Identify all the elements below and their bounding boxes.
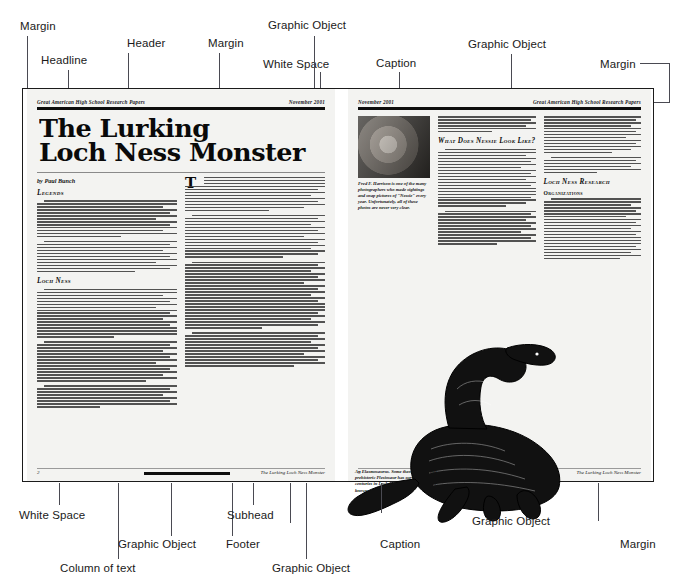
leader-graphic-object-bottom-right (381, 483, 382, 513)
annotation-label-graphic-object-bottom-left: Graphic Object (118, 538, 196, 550)
paragraph (438, 149, 536, 207)
photograph-fred-harrison (358, 116, 430, 178)
article-headline: The Lurking Loch Ness Monster (39, 117, 331, 165)
column-of-text-right: T (185, 177, 325, 411)
right-page: November 2001 Great American High School… (348, 89, 651, 481)
leader-margin-top-right-v (669, 63, 670, 103)
subhead-legends: Legends (37, 189, 177, 197)
paragraph (37, 200, 177, 237)
leader-header-stem (128, 53, 129, 91)
subhead-loch-ness: Loch Ness (37, 277, 177, 285)
paragraph (438, 211, 536, 245)
paragraph (438, 116, 536, 132)
annotation-label-footer: Footer (226, 538, 260, 550)
leader-margin-top-mid (219, 53, 220, 91)
annotation-label-caption-top: Caption (376, 57, 416, 69)
annotation-label-graphic-object-top-right: Graphic Object (468, 38, 546, 50)
annotation-label-graphic-object-bottom-right: Graphic Object (472, 515, 550, 527)
annotation-label-caption-bottom: Caption (380, 538, 420, 550)
figure-caption-elasmosaurus: An Elasmosaurus. Some theories think thi… (355, 469, 447, 494)
right-column-two: What Does Nessie Look Like? (438, 116, 536, 263)
subhead-organizations: Organizations (544, 190, 642, 196)
right-column-one: Fred F. Harrison is one of the many phot… (358, 116, 430, 263)
leader-subhead (253, 483, 254, 505)
paragraph (185, 332, 325, 366)
right-running-head-left: November 2001 (358, 99, 394, 105)
paragraph (185, 215, 325, 258)
paragraph (544, 157, 642, 173)
headline-rule (37, 172, 325, 173)
column-of-text-left: by Paul Bunch Legends (37, 177, 177, 411)
leader-margin-top-right-h (640, 63, 670, 64)
leader-white-space-bottom (59, 483, 60, 505)
headline-line-2: Loch Ness Monster (39, 141, 331, 165)
annotation-label-margin-top-left: Margin (20, 20, 56, 32)
paragraph-with-dropcap: T (185, 177, 325, 211)
subhead-what-does-nessie-look-like: What Does Nessie Look Like? (438, 137, 536, 145)
annotation-label-subhead: Subhead (227, 509, 274, 521)
annotation-label-margin-top-mid: Margin (208, 37, 244, 49)
paragraph (37, 385, 177, 407)
left-running-head-left: Great American High School Research Pape… (37, 99, 145, 105)
left-page: Great American High School Research Pape… (27, 89, 335, 481)
paragraph (37, 289, 177, 338)
document-spread: Great American High School Research Pape… (22, 88, 654, 482)
article-byline: by Paul Bunch (37, 177, 177, 184)
leader-margin-bottom-right (598, 483, 599, 521)
annotation-label-graphic-object-bottom-mid: Graphic Object (272, 562, 350, 574)
right-footer-title: The Lurking Loch Ness Monster (577, 470, 641, 475)
leader-graphic-object-bottom-mid (306, 483, 307, 559)
paragraph (544, 198, 642, 259)
annotated-page-layout-diagram: Margin Headline Header Margin White Spac… (0, 0, 677, 586)
right-column-three: Loch Ness Research Organizations (544, 116, 642, 263)
paragraph (544, 116, 642, 153)
annotation-label-column-of-text: Column of text (60, 562, 136, 574)
right-running-head-right: Great American High School Research Pape… (533, 99, 641, 105)
annotation-label-margin-bottom-right: Margin (620, 538, 656, 550)
annotation-label-white-space-bottom: White Space (19, 509, 85, 521)
left-page-running-head: Great American High School Research Pape… (37, 99, 325, 106)
right-header-rule (358, 107, 641, 110)
annotation-label-headline: Headline (41, 54, 87, 66)
leader-graphic-object-bottom-left (171, 483, 172, 536)
photo-caption: Fred F. Harrison is one of the many phot… (358, 181, 430, 212)
paragraph (185, 262, 325, 329)
paragraph (37, 341, 177, 381)
drop-cap: T (185, 178, 196, 189)
left-running-head-right: November 2001 (289, 99, 325, 105)
right-page-columns: Fred F. Harrison is one of the many phot… (358, 116, 641, 263)
annotation-label-white-space-top: White Space (263, 58, 329, 70)
left-footer-title: The Lurking Loch Ness Monster (261, 470, 325, 475)
paragraph (37, 241, 177, 272)
left-page-number: 2 (37, 470, 40, 475)
subhead-loch-ness-research: Loch Ness Research (544, 178, 642, 186)
right-page-running-head: November 2001 Great American High School… (358, 99, 641, 106)
left-page-columns: by Paul Bunch Legends (37, 177, 325, 411)
annotation-label-margin-top-right: Margin (600, 58, 636, 70)
leader-graphic-object-top-left (314, 36, 315, 92)
annotation-label-header: Header (127, 37, 165, 49)
right-footer-bar (463, 472, 548, 475)
left-header-rule (37, 107, 325, 110)
left-footer-bar (144, 472, 230, 475)
leader-caption-bottom (290, 483, 291, 523)
annotation-label-graphic-object-top-left: Graphic Object (268, 19, 346, 31)
